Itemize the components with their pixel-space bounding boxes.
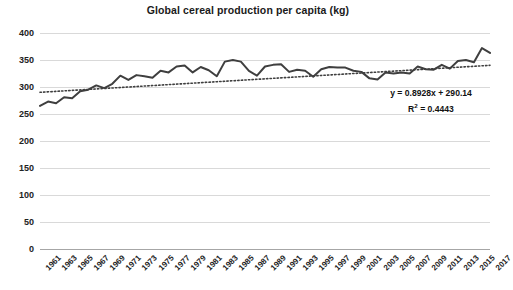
x-axis-tick-label: 1963: [60, 253, 79, 272]
x-axis-tick-label: 2001: [365, 253, 384, 272]
x-axis-tick-label: 1983: [221, 253, 240, 272]
x-axis-tick-label: 2013: [462, 253, 481, 272]
x-axis-tick-label: 1993: [301, 253, 320, 272]
x-axis-tick-label: 2017: [494, 253, 513, 272]
x-axis-tick-label: 1973: [140, 253, 159, 272]
x-axis-tick-label: 2009: [430, 253, 449, 272]
x-axis-tick-label: 1999: [349, 253, 368, 272]
y-axis-tick-label: 300: [19, 82, 40, 92]
x-axis-line: [40, 249, 490, 250]
y-axis-tick-label: 250: [19, 109, 40, 119]
y-axis-tick-label: 100: [19, 190, 40, 200]
trendline-r2: R2 = 0.4443: [370, 100, 492, 115]
trendline-equation-annotation: y = 0.8928x + 290.14 R2 = 0.4443: [370, 88, 492, 115]
y-axis-tick-label: 200: [19, 136, 40, 146]
x-axis-tick-label: 1989: [269, 253, 288, 272]
chart-title: Global cereal production per capita (kg): [0, 4, 496, 16]
y-axis-tick-label: 150: [19, 163, 40, 173]
x-axis-tick-label: 1981: [205, 253, 224, 272]
x-axis-tick-label: 1961: [44, 253, 63, 272]
y-axis-tick-label: 350: [19, 55, 40, 65]
x-axis-tick-label: 1975: [156, 253, 175, 272]
y-axis-tick-label: 0: [29, 244, 40, 254]
x-axis-tick-label: 1969: [108, 253, 127, 272]
x-axis-tick-label: 2011: [445, 253, 464, 272]
x-axis-tick-label: 1997: [333, 253, 352, 272]
x-axis-tick-label: 1987: [253, 253, 272, 272]
x-axis-tick-label: 2007: [413, 253, 432, 272]
x-axis-tick-label: 1985: [237, 253, 256, 272]
series-plot: [40, 33, 490, 249]
y-axis-tick-label: 400: [19, 28, 40, 38]
x-axis-tick-label: 1977: [172, 253, 191, 272]
x-axis-tick-label: 1995: [317, 253, 336, 272]
plot-area: 400350300250200150100500: [40, 33, 490, 249]
trendline-equation: y = 0.8928x + 290.14: [370, 88, 492, 100]
x-axis-tick-label: 2015: [478, 253, 497, 272]
x-axis-ticks: 1961196319651967196919711973197519771979…: [40, 252, 490, 290]
x-axis-tick-label: 1991: [285, 253, 304, 272]
x-axis-tick-label: 1967: [92, 253, 111, 272]
y-axis-tick-label: 50: [24, 217, 40, 227]
x-axis-tick-label: 1971: [124, 253, 143, 272]
r2-value: = 0.4443: [418, 103, 454, 113]
x-axis-tick-label: 1979: [188, 253, 207, 272]
x-axis-tick-label: 1965: [76, 253, 95, 272]
x-axis-tick-label: 2003: [381, 253, 400, 272]
x-axis-tick-label: 2005: [397, 253, 416, 272]
